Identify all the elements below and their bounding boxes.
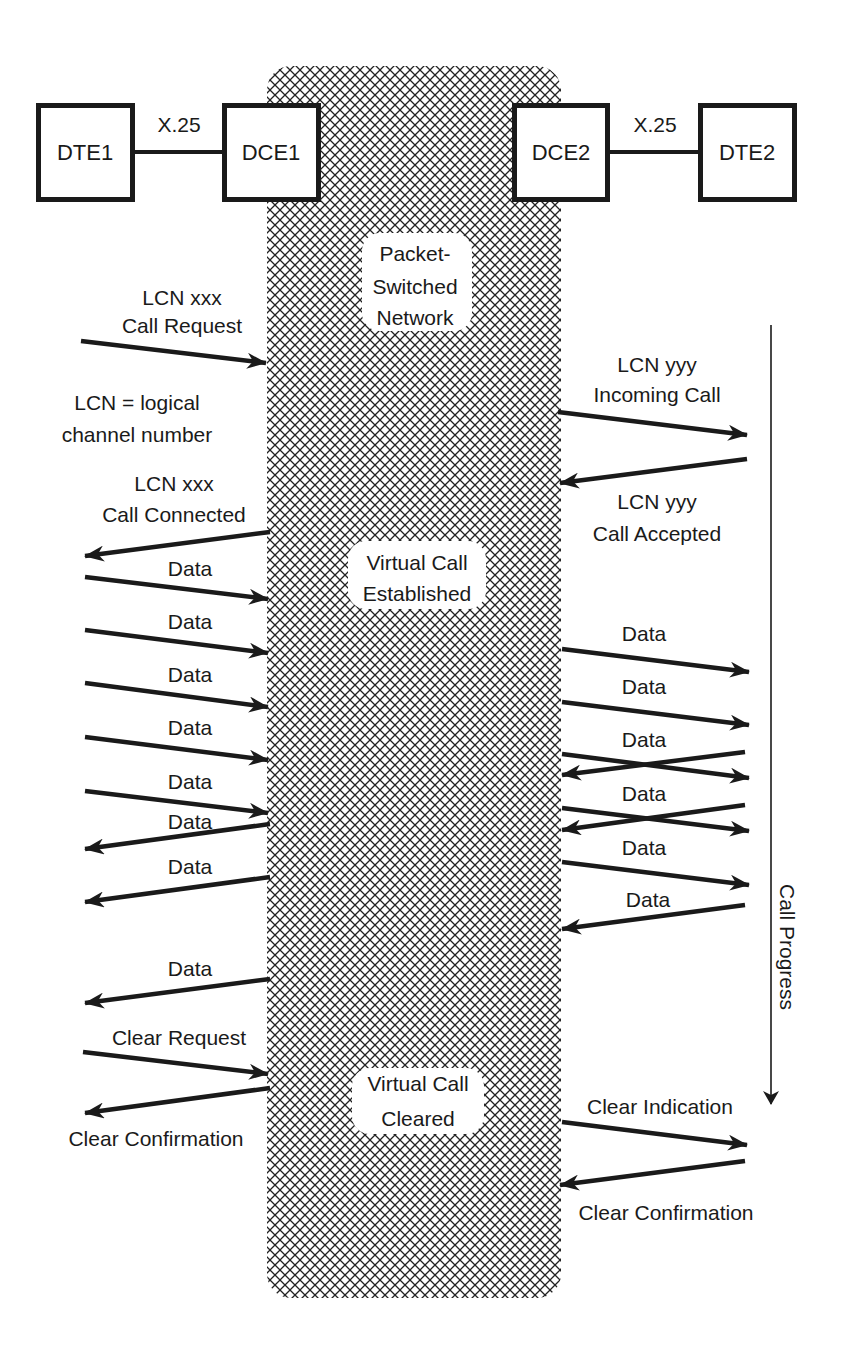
link-label-right: X.25 bbox=[633, 113, 676, 136]
lcn-definition-line-1: LCN = logical bbox=[74, 391, 199, 414]
arrow-clear-request bbox=[83, 1052, 268, 1074]
node-dce2: DCE2 bbox=[515, 106, 608, 200]
arrow-left-data-8 bbox=[85, 979, 270, 1003]
left-data-label-1: Data bbox=[168, 557, 213, 580]
x25-call-sequence-diagram: Packet- Switched Network Virtual Call Es… bbox=[0, 0, 842, 1354]
call-accepted-line-2: Call Accepted bbox=[593, 522, 721, 545]
left-data-label-2: Data bbox=[168, 610, 213, 633]
right-clear-confirmation-label: Clear Confirmation bbox=[578, 1201, 753, 1224]
left-data-label-5: Data bbox=[168, 770, 213, 793]
right-data-label-4: Data bbox=[622, 782, 667, 805]
clear-request-label: Clear Request bbox=[112, 1026, 246, 1049]
arrow-right-data-3a bbox=[562, 754, 749, 778]
right-data-label-5: Data bbox=[622, 836, 667, 859]
node-dte2: DTE2 bbox=[701, 106, 795, 200]
call-progress-axis: Call Progress bbox=[771, 325, 799, 1104]
call-connected-line-2: Call Connected bbox=[102, 503, 246, 526]
incoming-call-line-1: LCN yyy bbox=[617, 353, 697, 376]
right-data-label-3: Data bbox=[622, 728, 667, 751]
clear-indication-label: Clear Indication bbox=[587, 1095, 733, 1118]
virtual-call-cleared-line-1: Virtual Call bbox=[367, 1072, 468, 1095]
arrow-left-data-2 bbox=[85, 630, 268, 653]
arrow-right-data-2 bbox=[562, 702, 749, 725]
network-label-line-3: Network bbox=[376, 306, 454, 329]
packet-switched-network: Packet- Switched Network Virtual Call Es… bbox=[267, 66, 561, 1298]
call-request-line-1: LCN xxx bbox=[142, 286, 222, 309]
call-progress-label: Call Progress bbox=[776, 884, 799, 1010]
left-side-labels: LCN xxx Call Request LCN = logical chann… bbox=[62, 286, 247, 1150]
arrow-incoming-call bbox=[558, 412, 747, 435]
network-label-line-1: Packet- bbox=[379, 242, 450, 265]
node-dte2-label: DTE2 bbox=[719, 140, 775, 165]
right-data-label-6: Data bbox=[626, 888, 671, 911]
left-data-label-7: Data bbox=[168, 855, 213, 878]
node-dte1-label: DTE1 bbox=[57, 140, 113, 165]
arrow-left-data-3 bbox=[85, 683, 268, 707]
node-dce1-label: DCE1 bbox=[242, 140, 301, 165]
right-data-label-2: Data bbox=[622, 675, 667, 698]
call-connected-line-1: LCN xxx bbox=[134, 472, 214, 495]
node-dce2-label: DCE2 bbox=[532, 140, 591, 165]
call-request-line-2: Call Request bbox=[122, 314, 242, 337]
arrow-right-clear-confirmation bbox=[560, 1161, 745, 1185]
arrow-left-clear-confirmation bbox=[85, 1088, 270, 1113]
call-accepted-line-1: LCN yyy bbox=[617, 490, 697, 513]
virtual-call-established-line-1: Virtual Call bbox=[366, 551, 467, 574]
incoming-call-line-2: Incoming Call bbox=[593, 383, 720, 406]
arrow-call-accepted bbox=[560, 459, 747, 483]
right-data-label-1: Data bbox=[622, 622, 667, 645]
right-side-labels: LCN yyy Incoming Call LCN yyy Call Accep… bbox=[578, 353, 753, 1224]
arrow-right-data-5 bbox=[562, 862, 749, 885]
virtual-call-established-line-2: Established bbox=[363, 582, 472, 605]
arrow-right-data-1 bbox=[562, 649, 749, 672]
arrow-left-data-4 bbox=[85, 737, 268, 760]
arrow-clear-indication bbox=[562, 1122, 747, 1145]
arrow-call-request bbox=[81, 341, 266, 363]
virtual-call-cleared-line-2: Cleared bbox=[381, 1107, 455, 1130]
left-data-label-4: Data bbox=[168, 716, 213, 739]
arrow-call-connected bbox=[85, 532, 270, 556]
left-data-label-3: Data bbox=[168, 663, 213, 686]
node-dce1: DCE1 bbox=[225, 106, 319, 200]
left-clear-confirmation-label: Clear Confirmation bbox=[68, 1127, 243, 1150]
node-dte1: DTE1 bbox=[39, 106, 133, 200]
link-label-left: X.25 bbox=[157, 113, 200, 136]
left-data-label-8: Data bbox=[168, 957, 213, 980]
arrow-left-data-1 bbox=[85, 577, 268, 599]
left-data-label-6: Data bbox=[168, 810, 213, 833]
lcn-definition-line-2: channel number bbox=[62, 423, 213, 446]
arrow-left-data-7 bbox=[85, 877, 270, 902]
network-label-line-2: Switched bbox=[372, 275, 457, 298]
